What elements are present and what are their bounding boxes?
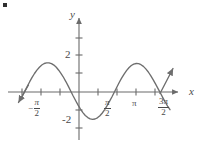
x-tick-label-pi: π <box>132 99 137 108</box>
y-tick-label-minus-2: -2 <box>62 114 71 125</box>
fraction-pi-over-2: π 2 <box>104 98 111 118</box>
x-axis <box>8 89 178 96</box>
fraction-3pi-over-2: 3π 2 <box>158 97 169 117</box>
y-tick-label-2: 2 <box>65 49 71 60</box>
x-axis-label: x <box>189 86 194 97</box>
x-tick-label-minus-pi-over-2: − π 2 <box>28 98 40 118</box>
x-tick-label-pi-over-2: π 2 <box>104 98 111 118</box>
fraction-pi-over-2: π 2 <box>34 98 41 118</box>
y-axis-label: y <box>70 9 75 20</box>
x-tick-label-3pi-over-2: 3π 2 <box>158 97 169 117</box>
y-axis <box>76 18 83 140</box>
function-curve <box>19 63 174 120</box>
graph-figure: y x 2 -2 − π 2 π 2 π 3π 2 <box>0 0 203 149</box>
coordinate-plot <box>0 0 203 149</box>
